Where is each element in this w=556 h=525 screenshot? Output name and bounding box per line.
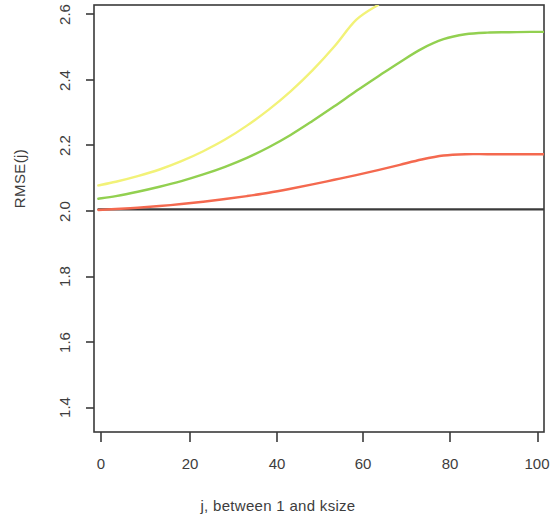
data-curves <box>98 5 544 210</box>
plot-box <box>94 5 544 432</box>
y-tick-marks <box>86 14 94 408</box>
plot-area <box>0 0 556 525</box>
x-tick-marks <box>101 432 538 442</box>
series-yellow-curve <box>98 5 378 185</box>
series-green-curve <box>98 32 544 199</box>
series-red-curve <box>98 154 544 210</box>
chart-figure: RMSE(j) 2.6 2.4 2.2 2.0 1.8 1.6 1.4 0 20… <box>0 0 556 525</box>
